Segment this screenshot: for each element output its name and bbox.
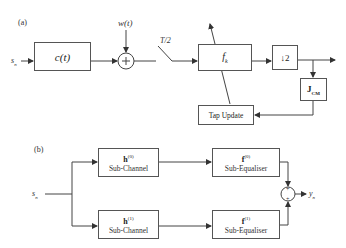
output-yn: yn (309, 189, 315, 200)
sub-equaliser-1: f(1) Sub-Equaliser (212, 210, 280, 239)
cost-box: JCM (300, 78, 327, 101)
channel-box: c(t) (34, 42, 91, 71)
sub-channel-0: h(0) Sub-Channel (98, 148, 159, 177)
sub-channel-1: h(1) Sub-Channel (98, 210, 159, 239)
equalizer-box: fk (198, 44, 252, 71)
label-b: (b) (34, 145, 43, 154)
diagram-lines: + + (0, 0, 346, 248)
input-sn-b: sn (32, 189, 38, 200)
sampler-label: T/2 (160, 36, 171, 45)
label-a: (a) (18, 18, 27, 27)
input-sn-a: sn (11, 56, 17, 67)
noise-label: w(t) (118, 18, 133, 28)
downsample-box: ↓2 (272, 45, 298, 70)
sub-equaliser-0: f(0) Sub-Equaliser (212, 148, 280, 177)
tap-update-box: Tap Update (198, 105, 254, 125)
